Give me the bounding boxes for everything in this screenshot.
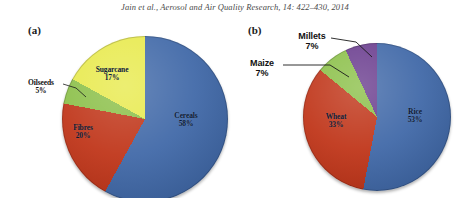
- figure-root: Jain et al., Aerosol and Air Quality Res…: [0, 0, 470, 198]
- pie-b-leader-lines: [0, 0, 470, 198]
